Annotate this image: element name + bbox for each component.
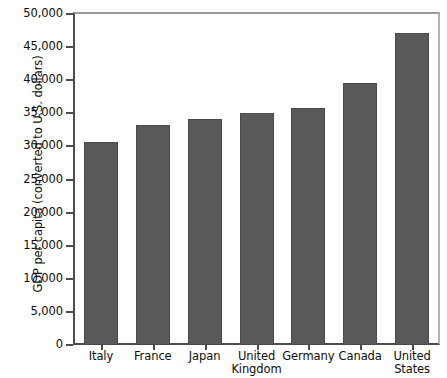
x-axis-tick-label: United States [380,350,444,376]
y-axis-tick-label: 40,000 [23,72,63,86]
bar [240,113,274,345]
y-axis-tick-label: 50,000 [23,6,63,20]
bar [343,83,377,345]
bar [84,142,118,345]
y-axis-tick-label: 0 [56,337,63,351]
y-axis-tick-mark [66,13,73,15]
y-axis-tick-mark [66,46,73,48]
y-axis-tick-mark [66,344,73,346]
plot-area [75,14,438,345]
bar [395,33,429,345]
y-axis-tick-label: 25,000 [23,172,63,186]
y-axis-tick-mark [66,112,73,114]
bar-chart: GDP per capita (converted to U.S. dollar… [0,0,447,378]
y-axis-tick-mark [66,179,73,181]
y-axis-tick-label: 5,000 [31,304,63,318]
bar [136,125,170,345]
y-axis-tick-mark [66,79,73,81]
bar [291,108,325,345]
bar [188,119,222,345]
y-axis-tick-label: 30,000 [23,138,63,152]
y-axis-tick-mark [66,145,73,147]
y-axis-tick-label: 45,000 [23,39,63,53]
y-axis-tick-mark [66,245,73,247]
y-axis-tick-label: 15,000 [23,238,63,252]
y-axis-tick-label: 10,000 [23,271,63,285]
y-axis-tick-label: 20,000 [23,205,63,219]
y-axis-tick-mark [66,311,73,313]
y-axis-tick-mark [66,212,73,214]
y-axis-tick-mark [66,278,73,280]
y-axis-tick-label: 35,000 [23,105,63,119]
